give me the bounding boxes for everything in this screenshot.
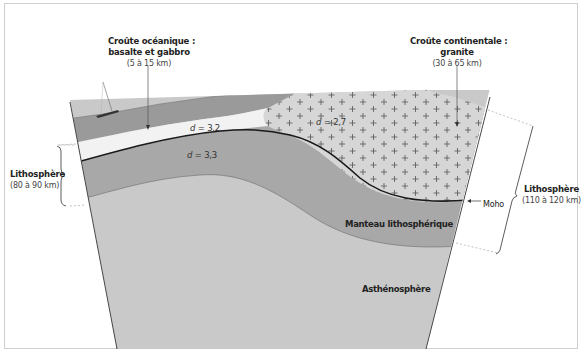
continental-crust-title-2: granite bbox=[410, 47, 504, 58]
lithosphere-left-thickness: (80 à 90 km) bbox=[10, 180, 65, 191]
density-continental-crust: d = 2,7 bbox=[316, 117, 346, 127]
density-oceanic-crust: d = 3,2 bbox=[190, 123, 220, 133]
density-value: = 2,7 bbox=[324, 117, 346, 127]
oceanic-crust-thickness: (5 à 15 km) bbox=[108, 58, 190, 69]
density-symbol: d bbox=[187, 150, 192, 160]
lithosphere-right-label: Lithosphère (110 à 120 km) bbox=[522, 184, 581, 206]
density-value: = 3,2 bbox=[198, 123, 220, 133]
asthenosphere-label: Asthénosphère bbox=[362, 284, 430, 294]
lithospheric-mantle-label: Manteau lithosphérique bbox=[345, 219, 453, 229]
density-symbol: d bbox=[190, 123, 195, 133]
moho-label: Moho bbox=[483, 196, 504, 210]
lithosphere-right-title: Lithosphère bbox=[522, 184, 581, 195]
continental-crust-thickness: (30 à 65 km) bbox=[410, 58, 504, 69]
density-symbol: d bbox=[316, 117, 321, 127]
density-lithospheric-mantle: d = 3,3 bbox=[187, 150, 217, 160]
lithosphere-right-thickness: (110 à 120 km) bbox=[522, 195, 581, 206]
continental-crust-label: Croûte continentale : granite (30 à 65 k… bbox=[410, 36, 504, 69]
oceanic-crust-title-2: basalte et gabbro bbox=[108, 47, 190, 58]
lithosphere-left-title: Lithosphère bbox=[10, 169, 65, 180]
density-value: = 3,3 bbox=[195, 150, 217, 160]
oceanic-crust-title-1: Croûte océanique : bbox=[108, 36, 190, 47]
oceanic-crust-label: Croûte océanique : basalte et gabbro (5 … bbox=[108, 36, 190, 69]
moho-pointer bbox=[467, 199, 481, 203]
moho-text: Moho bbox=[483, 200, 504, 209]
lithosphere-left-label: Lithosphère (80 à 90 km) bbox=[10, 169, 65, 191]
continental-crust-title-1: Croûte continentale : bbox=[410, 36, 504, 47]
